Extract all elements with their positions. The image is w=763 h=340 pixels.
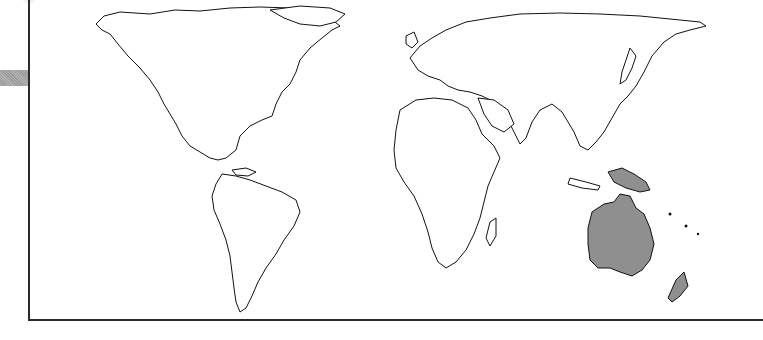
side-tab-marker <box>0 70 29 86</box>
pacific-island <box>669 213 672 216</box>
madagascar <box>486 218 496 246</box>
pacific-island <box>697 233 699 235</box>
british-isles <box>406 32 418 48</box>
indonesia <box>568 178 600 190</box>
australia <box>588 194 654 276</box>
south-america <box>212 174 300 312</box>
north-america <box>96 7 340 160</box>
world-map <box>30 0 763 318</box>
new-guinea <box>608 168 650 192</box>
frame-bottom-border <box>28 319 763 321</box>
caribbean <box>232 168 256 176</box>
new-zealand <box>668 272 688 302</box>
africa <box>394 98 500 268</box>
pacific-island <box>685 225 688 228</box>
